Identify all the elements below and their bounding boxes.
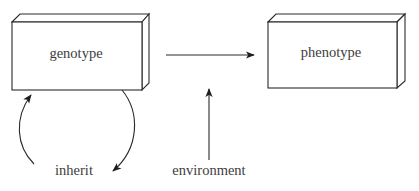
environment-label: environment — [172, 163, 245, 178]
genotype-to-inherit-arrow — [113, 90, 135, 171]
inherit-to-genotype-arrow — [19, 95, 34, 164]
genotype-label: genotype — [49, 46, 102, 61]
phenotype-label: phenotype — [301, 45, 361, 60]
phenotype-box-side-face — [397, 14, 405, 88]
genotype-box-top-face — [12, 14, 149, 22]
genotype-box-side-face — [142, 14, 149, 90]
inherit-label: inherit — [55, 163, 93, 178]
phenotype-box-top-face — [268, 14, 405, 22]
